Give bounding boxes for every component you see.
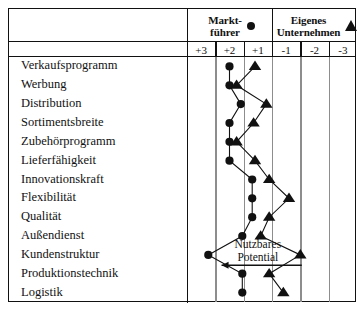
scale-tick-minus1: -1: [272, 42, 300, 57]
scale-cell-divider-1: [215, 42, 216, 57]
marker-triangle: [263, 174, 275, 183]
gridline-4: [300, 57, 301, 302]
criteria-label: Qualität: [21, 210, 61, 223]
marker-circle: [248, 175, 256, 183]
scale-cell-divider-3: [272, 42, 273, 57]
legend-own-company-line2: Unternehmen: [277, 26, 341, 38]
scale-tick-plus1: +1: [244, 42, 272, 57]
label-column-border: [187, 9, 188, 303]
annotation-line2: Potential: [237, 251, 278, 263]
scale-cell-divider-4: [300, 42, 301, 57]
criteria-label: Flexibilität: [21, 191, 76, 204]
scale-cell-divider-2: [244, 42, 245, 57]
marker-circle: [225, 157, 233, 165]
legend-own-company-line1: Eigenes: [291, 14, 326, 26]
filled-circle-icon: [247, 22, 255, 30]
marker-triangle: [260, 98, 272, 107]
legend-market-leader-line2: führer: [208, 26, 242, 38]
scale-tick-minus2: -2: [300, 42, 328, 57]
criteria-label: Kundenstruktur: [21, 248, 99, 261]
gridline-2: [244, 57, 245, 302]
marker-circle: [225, 62, 233, 70]
legend-market-leader: Markt- führer: [187, 9, 276, 42]
gridline-5: [329, 57, 330, 302]
legend-own-company: Eigenes Unternehmen: [277, 9, 357, 42]
marker-circle: [225, 138, 233, 146]
criteria-label: Sortimentsbreite: [21, 116, 104, 129]
competitive-profile-chart: Markt- führer Eigenes Unternehmen +3+2+1…: [0, 0, 364, 311]
annotation-line1: Nutzbares: [235, 238, 282, 250]
marker-triangle: [263, 211, 275, 220]
marker-triangle: [249, 61, 261, 70]
legend-market-leader-label: Markt- führer: [208, 14, 242, 38]
legend-market-leader-line1: Markt-: [208, 14, 242, 26]
marker-circle: [238, 289, 246, 297]
marker-triangle: [247, 117, 259, 126]
chart-frame: Markt- führer Eigenes Unternehmen +3+2+1…: [8, 8, 356, 302]
marker-circle: [248, 213, 256, 221]
criteria-label: Zubehörprogramm: [21, 135, 115, 148]
criteria-label: Werbung: [21, 78, 67, 91]
marker-triangle: [283, 193, 295, 202]
scale-cell-divider-5: [329, 42, 330, 57]
criteria-label: Distribution: [21, 97, 81, 110]
nutzbares-potential-annotation: Nutzbares Potential: [213, 238, 304, 264]
gridline-1: [215, 57, 216, 302]
criteria-label: Verkaufsprogramm: [21, 59, 118, 72]
scale-tick-plus2: +2: [215, 42, 243, 57]
legend-own-company-label: Eigenes Unternehmen: [277, 14, 341, 38]
criteria-label-column: VerkaufsprogrammWerbungDistributionSorti…: [9, 57, 187, 302]
criteria-label: Außendienst: [21, 229, 84, 242]
gridline-3: [272, 57, 273, 302]
marker-circle: [238, 270, 246, 278]
scale-tick-minus3: -3: [329, 42, 357, 57]
marker-circle: [204, 251, 212, 259]
marker-circle: [248, 194, 256, 202]
marker-circle: [225, 81, 233, 89]
marker-triangle: [263, 268, 275, 277]
criteria-label: Logistik: [21, 286, 63, 299]
marker-triangle: [277, 287, 289, 296]
criteria-label: Produktionstechnik: [21, 267, 118, 280]
criteria-label: Innovationskraft: [21, 173, 104, 186]
criteria-label: Lieferfähigkeit: [21, 154, 96, 167]
scale-tick-plus3: +3: [187, 42, 215, 57]
marker-triangle: [230, 79, 242, 88]
marker-triangle: [230, 136, 242, 145]
marker-triangle: [249, 155, 261, 164]
filled-triangle-icon: [345, 20, 357, 31]
marker-circle: [225, 119, 233, 127]
